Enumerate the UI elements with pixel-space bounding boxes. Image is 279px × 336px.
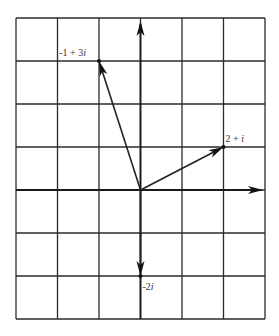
label-imaginary-unit: i [151,281,154,292]
label-real-part: -1 + 3 [59,47,83,58]
vector-label: 2 + i [226,133,245,144]
vector: 2 + i [141,133,245,190]
vector-line [101,67,141,190]
label-real-part: -2 [143,281,151,292]
label-imaginary-unit: i [83,47,86,58]
point-dot [139,274,143,278]
point-dot [222,145,226,149]
vector-label: -2i [143,281,154,292]
label-real-part: 2 + [226,133,242,144]
vector: -1 + 3i [59,47,140,190]
vector-label: -1 + 3i [59,47,86,58]
label-imaginary-unit: i [241,133,244,144]
vector: -2i [137,190,154,292]
vectors: -1 + 3i2 + i-2i [59,47,244,292]
point-dot [97,59,101,63]
vector-arrowhead-icon [208,147,223,158]
vector-line [141,150,219,190]
complex-plane-diagram: -1 + 3i2 + i-2i [0,0,279,336]
